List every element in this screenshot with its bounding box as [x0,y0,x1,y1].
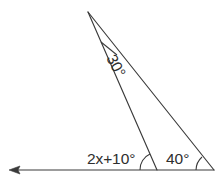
segment-apex-base-right [88,12,214,170]
angle-arc-right [196,157,202,170]
segment-apex-base-middle [88,12,157,170]
geometry-figure: 30° 2x+10° 40° [0,0,223,187]
interior-left-angle-label: 2x+10° [87,150,135,167]
angle-arc-middle [140,154,150,170]
geometry-canvas: 30° 2x+10° 40° [0,0,223,187]
right-angle-label: 40° [166,150,189,167]
